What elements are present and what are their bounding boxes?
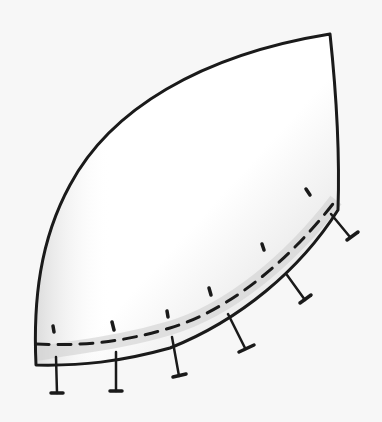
seam-tick xyxy=(112,322,114,330)
notch-stem xyxy=(331,214,350,237)
notch-bar xyxy=(239,345,254,352)
notch-stem xyxy=(287,275,305,300)
notch-stem xyxy=(56,357,57,393)
sketch-canvas xyxy=(0,0,382,422)
seam-tick xyxy=(262,244,264,250)
seam-tick xyxy=(53,326,54,332)
notch-bar xyxy=(173,374,186,377)
seam-tick xyxy=(209,288,211,295)
notch-stem xyxy=(228,314,245,348)
pattern-piece-illustration xyxy=(0,0,382,422)
seam-tick xyxy=(167,311,168,317)
